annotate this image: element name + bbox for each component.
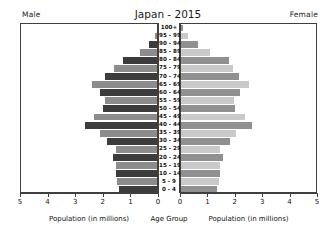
female-bar [181,122,252,129]
female-plot-panel [180,23,317,193]
female-bar-row [181,64,316,72]
male-bar [105,97,157,104]
male-bar [103,105,157,112]
age-group-axis: 100+95 - 9990 - 9485 - 8980 - 8475 - 797… [158,23,180,193]
male-bar-row [21,170,157,178]
female-bar [181,162,220,169]
age-group-label: 45 - 49 [159,112,179,120]
female-bar-row [181,40,316,48]
female-bar-row [181,81,316,89]
male-bar-row [21,154,157,162]
age-group-label: 5 - 9 [159,177,179,185]
female-bar [181,130,236,137]
male-bar-row [21,113,157,121]
female-bar [181,146,220,153]
female-bar [181,114,245,121]
male-bar-row [21,48,157,56]
female-bar [181,81,249,88]
age-group-label: 75 - 79 [159,63,179,71]
male-bar-row [21,40,157,48]
male-bar [100,89,157,96]
female-side-label: Female [290,10,318,19]
male-bar-row [21,186,157,193]
age-group-label: 30 - 34 [159,136,179,144]
male-bar [113,154,157,161]
female-bar-row [181,105,316,113]
age-group-label: 95 - 99 [159,31,179,39]
age-group-label: 50 - 54 [159,104,179,112]
age-group-label: 80 - 84 [159,55,179,63]
age-group-label: 55 - 59 [159,96,179,104]
female-bar-row [181,170,316,178]
x-axis-tick-label: 4 [282,198,298,206]
male-bar [119,186,157,193]
female-bar [181,89,240,96]
male-bar [116,146,157,153]
female-bar-row [181,178,316,186]
female-bar [181,49,210,56]
female-bar-row [181,121,316,129]
age-group-label: 20 - 24 [159,153,179,161]
female-bar-group [181,24,316,192]
x-axis-tick [75,193,76,197]
x-axis-tick-label: 3 [254,198,270,206]
female-bar [181,154,223,161]
x-axis-tick [207,193,208,197]
age-group-label: 90 - 94 [159,39,179,47]
female-bar [181,65,233,72]
male-bar-row [21,145,157,153]
female-x-axis-line [180,193,317,194]
x-axis-tick [20,193,21,197]
female-bar [181,33,188,40]
x-axis-tick [48,193,49,197]
x-axis-tick [262,193,263,197]
x-axis-tick-label: 1 [199,198,215,206]
male-bar-group [21,24,157,192]
male-bar [116,170,157,177]
female-bar [181,138,230,145]
x-axis-tick-label: 2 [95,198,111,206]
male-bar [123,57,157,64]
male-x-axis-line [20,193,158,194]
age-group-label: 40 - 44 [159,120,179,128]
x-axis-tick [235,193,236,197]
chart-title: Japan - 2015 [0,8,336,20]
male-bar-row [21,81,157,89]
female-bar [181,73,239,80]
x-axis-tick-label: 3 [67,198,83,206]
male-bar [100,130,157,137]
male-bar [116,162,157,169]
male-bar [105,73,157,80]
female-bar-row [181,48,316,56]
female-bar-row [181,89,316,97]
male-bar-row [21,56,157,64]
female-bar-row [181,24,316,32]
male-bar-row [21,121,157,129]
x-axis-tick [130,193,131,197]
female-bar-row [181,97,316,105]
female-bar [181,25,183,32]
female-bar [181,186,217,193]
age-group-label: 65 - 69 [159,80,179,88]
female-bar [181,178,219,185]
male-bar [85,122,157,129]
female-axis-caption: Population (in millions) [180,215,317,223]
x-axis-tick-label: 0 [172,198,188,206]
female-bar-row [181,137,316,145]
age-group-label: 15 - 19 [159,161,179,169]
male-bar-row [21,64,157,72]
x-axis-tick [290,193,291,197]
male-bar [149,41,157,48]
male-bar-row [21,32,157,40]
female-bar [181,57,229,64]
female-bar-row [181,162,316,170]
male-bar [117,178,157,185]
female-bar [181,41,198,48]
male-bar [92,81,157,88]
female-bar-row [181,129,316,137]
age-group-label: 85 - 89 [159,47,179,55]
male-bar-row [21,129,157,137]
male-bar-row [21,73,157,81]
age-group-label: 25 - 29 [159,144,179,152]
age-group-label: 70 - 74 [159,72,179,80]
